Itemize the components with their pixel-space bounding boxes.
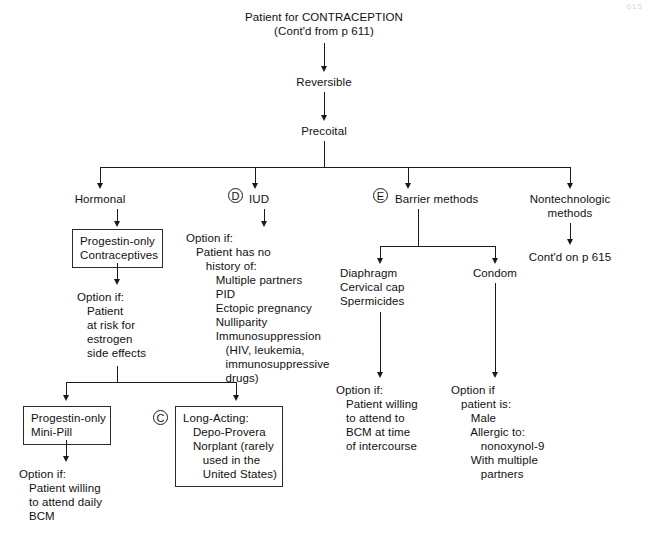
branch-label-iud: IUD: [249, 192, 319, 206]
connector-precoital-to-bus: [324, 141, 325, 167]
page-number: 615: [627, 2, 643, 11]
arrowhead-barrier: [405, 183, 411, 189]
arrowhead-hormonal-option: [114, 279, 120, 285]
connector-hormonal-option-to-fork: [117, 366, 118, 382]
arrowhead-iud: [252, 183, 258, 189]
branch-label-hormonal: Hormonal: [50, 192, 150, 206]
arrowhead-hormonal-box: [114, 221, 120, 227]
arrowhead-longacting: [233, 395, 239, 401]
arrowhead-diaphragm: [377, 258, 383, 264]
marker-circle-e: E: [373, 188, 388, 203]
option-iud: Option if: Patient has no history of: Mu…: [186, 231, 366, 385]
arrowhead-iud-option: [261, 221, 267, 227]
arrowhead-reversible: [321, 66, 327, 72]
arrowhead-nontech: [567, 183, 573, 189]
barrier-subfork-bus: [380, 246, 495, 247]
arrowhead-diaphragm-option: [377, 372, 383, 378]
option-condom: Option if patient is: Male Allergic to: …: [451, 383, 601, 481]
arrowhead-minipill-option: [63, 456, 69, 462]
arrowhead-precoital: [321, 115, 327, 121]
connector-diaphragm-to-option: [380, 312, 381, 374]
connector-barrier-to-fork: [418, 209, 419, 246]
main-branch-bus: [100, 167, 570, 168]
box-long-acting: Long-Acting: Depo-Provera Norplant (rare…: [175, 406, 283, 487]
contraception-flowchart: 615 Patient for CONTRACEPTION (Cont'd fr…: [0, 0, 649, 539]
connector-condom-to-option: [495, 283, 496, 374]
box-progestin-only-mini-pill: Progestin-only Mini-Pill: [23, 406, 111, 445]
marker-circle-d: D: [228, 188, 243, 203]
node-condom: Condom: [455, 266, 535, 280]
option-mini-pill: Option if: Patient willing to attend dai…: [19, 467, 159, 523]
node-reversible: Reversible: [264, 75, 384, 89]
node-precoital: Precoital: [264, 124, 384, 138]
branch-label-barrier: Barrier methods: [395, 192, 525, 206]
node-contd-p615: Cont'd on p 615: [515, 250, 625, 264]
arrowhead-minipill: [63, 395, 69, 401]
branch-label-nontech: Nontechnologic methods: [520, 192, 620, 220]
marker-circle-c: C: [153, 410, 168, 425]
arrowhead-hormonal: [97, 183, 103, 189]
node-diaphragm-group: Diaphragm Cervical cap Spermicides: [340, 266, 450, 308]
arrowhead-condom: [492, 258, 498, 264]
arrowhead-nontech-contd: [567, 239, 573, 245]
root-node-line1: Patient for CONTRACEPTION: [214, 10, 434, 24]
arrowhead-condom-option: [492, 372, 498, 378]
root-node-line2: (Cont'd from p 611): [214, 24, 434, 38]
